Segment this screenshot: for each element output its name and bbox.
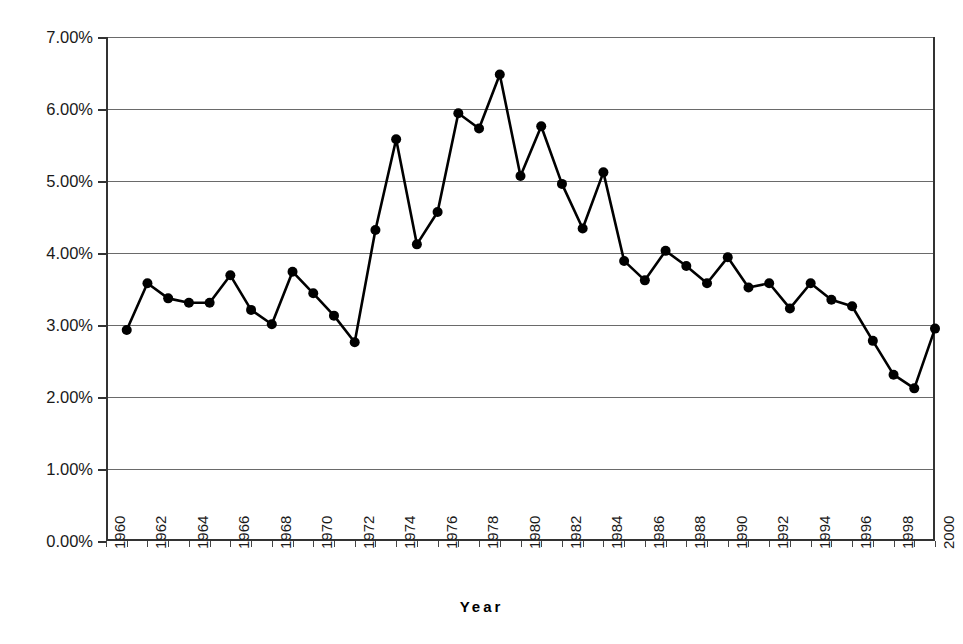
x-tick-mark	[852, 541, 853, 547]
y-tick-label: 5.00%	[0, 173, 93, 190]
x-tick-mark	[935, 541, 936, 547]
x-tick-label: 1960	[112, 516, 127, 549]
x-tick-mark	[562, 541, 563, 547]
data-point-marker	[142, 278, 152, 288]
data-point-marker	[889, 370, 899, 380]
y-tick-label: 7.00%	[0, 29, 93, 46]
data-point-marker	[350, 337, 360, 347]
x-tick-mark	[355, 541, 356, 547]
x-tick-mark	[728, 541, 729, 547]
x-tick-label: 1998	[900, 516, 915, 549]
data-point-marker	[909, 383, 919, 393]
x-tick-mark	[396, 541, 397, 547]
x-tick-mark	[272, 541, 273, 547]
x-tick-mark	[106, 541, 107, 547]
y-tick-label: 0.00%	[0, 533, 93, 550]
data-point-marker	[785, 303, 795, 313]
x-tick-mark	[230, 541, 231, 547]
x-tick-label: 1970	[319, 516, 334, 549]
y-tick-label: 4.00%	[0, 245, 93, 262]
x-tick-label: 1986	[651, 516, 666, 549]
x-tick-label: 1974	[402, 516, 417, 549]
data-point-marker	[453, 108, 463, 118]
plot-area	[106, 37, 935, 541]
data-point-marker	[702, 278, 712, 288]
data-point-marker	[598, 167, 608, 177]
x-tick-mark	[686, 541, 687, 547]
data-point-marker	[578, 224, 588, 234]
y-tick-label: 2.00%	[0, 389, 93, 406]
x-tick-label: 1962	[153, 516, 168, 549]
x-tick-label: 1964	[195, 516, 210, 549]
x-tick-label: 1972	[361, 516, 376, 549]
data-point-marker	[826, 295, 836, 305]
data-point-marker	[433, 207, 443, 217]
data-point-marker	[806, 278, 816, 288]
data-point-marker	[205, 298, 215, 308]
x-tick-label: 1968	[278, 516, 293, 549]
x-tick-label: 1976	[444, 516, 459, 549]
y-tick-mark	[98, 397, 106, 399]
x-tick-mark	[811, 541, 812, 547]
x-tick-mark	[313, 541, 314, 547]
x-tick-mark	[479, 541, 480, 547]
data-point-marker	[723, 252, 733, 262]
data-point-marker	[288, 267, 298, 277]
x-tick-mark	[147, 541, 148, 547]
y-tick-mark	[98, 181, 106, 183]
data-point-marker	[640, 275, 650, 285]
data-point-marker	[329, 311, 339, 321]
data-point-marker	[391, 134, 401, 144]
y-tick-mark	[98, 109, 106, 111]
y-tick-label: 6.00%	[0, 101, 93, 118]
data-point-marker	[536, 121, 546, 131]
x-tick-mark	[603, 541, 604, 547]
data-point-marker	[847, 301, 857, 311]
y-tick-label: 1.00%	[0, 461, 93, 478]
data-point-marker	[619, 256, 629, 266]
x-tick-label: 2000	[941, 516, 956, 549]
y-tick-mark	[98, 37, 106, 39]
y-tick-mark	[98, 541, 106, 543]
x-tick-label: 1984	[609, 516, 624, 549]
data-point-marker	[681, 261, 691, 271]
data-series-line	[106, 37, 935, 541]
data-point-marker	[764, 278, 774, 288]
x-tick-mark	[645, 541, 646, 547]
x-tick-label: 1988	[692, 516, 707, 549]
data-point-marker	[184, 298, 194, 308]
data-point-marker	[930, 324, 940, 334]
x-tick-mark	[189, 541, 190, 547]
x-tick-label: 1978	[485, 516, 500, 549]
y-tick-mark	[98, 325, 106, 327]
data-point-marker	[122, 325, 132, 335]
x-tick-label: 1966	[236, 516, 251, 549]
y-tick-label: 3.00%	[0, 317, 93, 334]
x-tick-mark	[894, 541, 895, 547]
data-point-marker	[743, 283, 753, 293]
x-tick-label: 1982	[568, 516, 583, 549]
data-point-marker	[225, 270, 235, 280]
x-axis-title: Year	[0, 598, 963, 615]
x-tick-label: 1994	[817, 516, 832, 549]
data-point-marker	[370, 225, 380, 235]
data-point-marker	[557, 179, 567, 189]
x-tick-label: 1992	[775, 516, 790, 549]
x-tick-mark	[769, 541, 770, 547]
line-chart: 7.00%6.00%5.00%4.00%3.00%2.00%1.00%0.00%…	[0, 0, 963, 644]
x-tick-mark	[438, 541, 439, 547]
data-point-marker	[474, 123, 484, 133]
data-point-marker	[163, 293, 173, 303]
x-tick-mark	[521, 541, 522, 547]
x-tick-label: 1990	[734, 516, 749, 549]
data-point-marker	[868, 336, 878, 346]
series-line	[127, 74, 935, 388]
data-point-marker	[246, 305, 256, 315]
data-point-marker	[267, 319, 277, 329]
data-point-marker	[661, 246, 671, 256]
y-tick-mark	[98, 469, 106, 471]
data-point-marker	[308, 288, 318, 298]
y-tick-mark	[98, 253, 106, 255]
data-point-marker	[495, 69, 505, 79]
x-tick-label: 1996	[858, 516, 873, 549]
